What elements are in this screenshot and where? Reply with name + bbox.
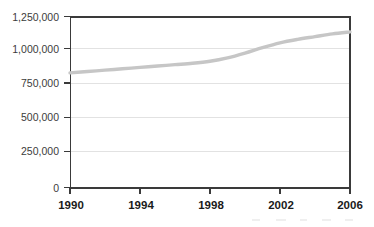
xtick-label-1994: 1994 bbox=[128, 199, 154, 211]
ytick-label-750000: 750,000 bbox=[21, 77, 59, 89]
ytick-label-250000: 250,000 bbox=[21, 145, 59, 157]
line-chart: 1,250,000 1,000,000 750,000 500,000 250,… bbox=[0, 0, 374, 227]
ytick-label-0: 0 bbox=[53, 182, 59, 194]
ytick-label-1000000: 1,000,000 bbox=[12, 43, 59, 55]
xtick-label-2002: 2002 bbox=[268, 199, 294, 211]
chart-canvas: 1,250,000 1,000,000 750,000 500,000 250,… bbox=[0, 0, 374, 227]
plot-area-background bbox=[70, 17, 350, 188]
ytick-label-500000: 500,000 bbox=[21, 111, 59, 123]
xtick-label-2006: 2006 bbox=[337, 199, 363, 211]
xtick-label-1998: 1998 bbox=[198, 199, 224, 211]
xtick-label-1990: 1990 bbox=[58, 199, 84, 211]
ytick-label-1250000: 1,250,000 bbox=[12, 11, 59, 23]
